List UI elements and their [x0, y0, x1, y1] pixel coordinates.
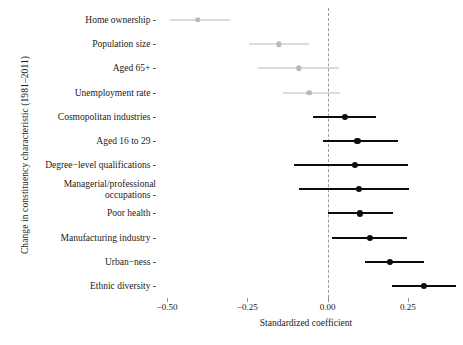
y-axis-tick-labels: Home ownership -Population size -Aged 65…: [20, 8, 156, 298]
estimate-point: [354, 138, 360, 144]
estimate-point: [296, 66, 301, 71]
y-axis-tick-label: Poor health -: [20, 208, 156, 219]
estimate-point: [356, 186, 362, 192]
confidence-interval-bar: [323, 140, 397, 142]
x-axis-tick-label: 0.25: [386, 302, 430, 312]
confidence-interval-bar: [365, 261, 424, 263]
y-axis-tick-label: Manufacturing industry -: [20, 232, 156, 243]
plot-panel: [156, 8, 456, 298]
x-axis: −0.50−0.250.000.25: [156, 298, 456, 318]
y-axis-tick-label: Degree−level qualifications -: [20, 160, 156, 171]
zero-reference-line: [328, 8, 329, 298]
estimate-point: [195, 17, 200, 22]
estimate-point: [342, 114, 348, 120]
y-axis-tick-label: Cosmopolitan industries -: [20, 112, 156, 123]
estimate-point: [357, 210, 363, 216]
y-axis-tick-label: Managerial/professional occupations -: [20, 179, 156, 200]
y-axis-tick-label: Ethnic diversity -: [20, 281, 156, 292]
confidence-interval-bar: [170, 20, 229, 21]
estimate-point: [307, 90, 312, 95]
y-axis-tick-label: Aged 65+ -: [20, 63, 156, 74]
estimate-point: [421, 283, 427, 289]
y-axis-tick-label: Population size -: [20, 39, 156, 50]
y-axis-tick-label: Aged 16 to 29 -: [20, 136, 156, 147]
x-axis-tick-label: 0.00: [306, 302, 350, 312]
x-axis-tick-label: −0.50: [145, 302, 189, 312]
y-axis-tick-label: Unemployment rate -: [20, 87, 156, 98]
forest-plot-figure: Change in constituency characteristic (1…: [0, 0, 463, 345]
y-axis-tick-label: Urban−ness -: [20, 257, 156, 268]
estimate-point: [276, 42, 281, 47]
x-axis-tick-label: −0.25: [225, 302, 269, 312]
estimate-point: [352, 162, 358, 168]
estimate-point: [386, 259, 392, 265]
x-axis-title: Standardized coefficient: [156, 318, 456, 328]
confidence-interval-bar: [299, 188, 409, 190]
estimate-point: [367, 234, 373, 240]
y-axis-tick-label: Home ownership -: [20, 15, 156, 26]
